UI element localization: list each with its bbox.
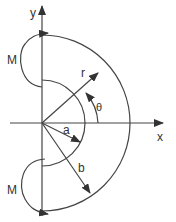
moment-arrow-bottom: [21, 159, 48, 214]
inner-radius-a-vector: [42, 123, 80, 142]
x-axis-label: x: [157, 130, 163, 144]
curved-beam-diagram: y x M M r θ a b: [0, 0, 176, 222]
inner-radius-a-label: a: [63, 123, 70, 137]
moment-label-top: M: [7, 53, 17, 67]
y-axis-label: y: [30, 6, 36, 20]
outer-radius-b-label: b: [78, 161, 85, 175]
radius-r-label: r: [81, 66, 85, 80]
moment-arrow-top: [21, 33, 48, 87]
moment-label-bottom: M: [7, 183, 17, 197]
theta-label: θ: [96, 101, 102, 113]
